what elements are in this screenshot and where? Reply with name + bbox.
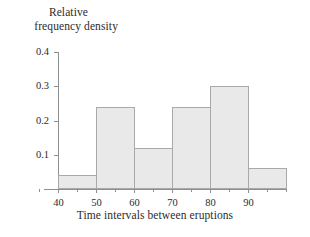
x-tick-label: 90 [243, 196, 254, 209]
x-tick-minor [115, 189, 116, 192]
x-tick-label: 40 [53, 196, 64, 209]
y-tick-label: 0.2 [36, 114, 49, 127]
x-axis-line [44, 189, 286, 190]
y-tick-label: 0.3 [36, 79, 49, 92]
histogram-bar [134, 148, 173, 189]
x-tick-minor [286, 189, 287, 192]
y-tick: 0.3 [54, 86, 58, 87]
histogram-bar [58, 175, 97, 189]
x-tick-minor [191, 189, 192, 192]
x-axis-title: Time intervals between eruptions [0, 209, 310, 221]
y-axis-line [58, 52, 59, 189]
x-tick: 70 [172, 189, 173, 193]
x-tick: 90 [248, 189, 249, 193]
x-tick-label: 50 [91, 196, 102, 209]
x-tick: 40 [58, 189, 59, 193]
histogram-bar [172, 107, 211, 189]
x-tick-label: 60 [129, 196, 140, 209]
x-tick: 60 [134, 189, 135, 193]
x-tick-label: 70 [167, 196, 178, 209]
x-tick-label: 80 [205, 196, 216, 209]
y-tick: 0.1 [54, 155, 58, 156]
y-tick: 0.4 [54, 52, 58, 53]
y-axis-title: Relative frequency density [0, 6, 118, 33]
x-tick-minor [267, 189, 268, 192]
y-tick: 0.2 [54, 121, 58, 122]
histogram-bar [248, 168, 287, 189]
histogram-bar [210, 86, 249, 189]
x-tick-minor [153, 189, 154, 192]
x-tick: 80 [210, 189, 211, 193]
x-tick: 50 [96, 189, 97, 193]
histogram-bar [96, 107, 135, 189]
y-tick-label: 0.1 [36, 148, 49, 161]
y-axis-title-line-2: frequency density [0, 20, 118, 34]
y-axis-title-line-1: Relative [0, 6, 118, 20]
y-tick-label: 0.4 [36, 45, 49, 58]
x-tick-minor [39, 189, 40, 192]
x-tick-minor [229, 189, 230, 192]
histogram-figure: Relative frequency density 0.10.20.30.4 … [0, 0, 310, 237]
plot-area: 0.10.20.30.4 405060708090 [58, 52, 286, 189]
x-tick-minor [77, 189, 78, 192]
